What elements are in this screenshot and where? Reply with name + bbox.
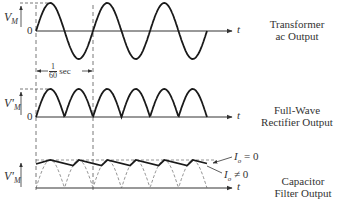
- bottom-title-line-1: Capacitor: [262, 175, 344, 187]
- bottom-y-label-sub: M: [14, 176, 21, 185]
- bottom-title-line-2: Filter Output: [262, 187, 344, 199]
- period-unit: sec: [59, 66, 71, 76]
- ripple-trace: [36, 160, 207, 166]
- io-nonzero-rel: ≠ 0: [234, 168, 248, 180]
- mid-zero-label: 0: [27, 110, 33, 122]
- mid-panel-title: Full-Wave Rectifier Output: [250, 104, 344, 128]
- mid-t-label: t: [237, 109, 240, 121]
- period-label: 160 sec: [49, 63, 71, 80]
- io-nonzero-sub: o: [228, 175, 232, 183]
- io-zero-annotation: Io = 0: [234, 150, 258, 165]
- bottom-panel-title: Capacitor Filter Output: [262, 175, 344, 199]
- rectified-trace: [36, 89, 207, 117]
- top-title-line-2: ac Output: [252, 30, 342, 42]
- mid-y-label: V'M: [4, 96, 21, 112]
- mid-y-label-sub: M: [14, 103, 21, 112]
- io-nonzero-annotation: Io ≠ 0: [224, 168, 248, 183]
- mid-title-line-2: Rectifier Output: [250, 116, 344, 128]
- top-t-label: t: [237, 23, 240, 35]
- top-title-line-1: Transformer: [252, 18, 342, 30]
- top-panel-title: Transformer ac Output: [252, 18, 342, 42]
- bottom-y-label: V'M: [4, 169, 21, 185]
- top-zero-label: 0: [27, 24, 33, 36]
- top-y-label: VM: [4, 10, 18, 26]
- period-denominator: 60: [49, 72, 57, 80]
- io-zero-sub: o: [238, 157, 242, 165]
- bottom-y-label-var: V': [4, 169, 14, 183]
- io-zero-pointer: [213, 157, 232, 163]
- period-fraction: 160: [49, 63, 57, 80]
- top-y-label-sub: M: [11, 17, 18, 26]
- io-zero-rel: = 0: [244, 150, 258, 162]
- io-nonzero-pointer: [207, 166, 222, 173]
- mid-y-label-var: V': [4, 96, 14, 110]
- mid-title-line-1: Full-Wave: [250, 104, 344, 116]
